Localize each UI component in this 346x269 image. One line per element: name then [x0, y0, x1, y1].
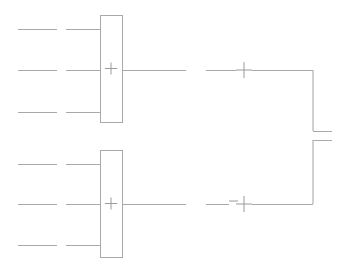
upper-summing-stage — [18, 16, 313, 123]
lower-summing-stage — [18, 151, 313, 258]
lower-sum-junction-plus-icon — [236, 196, 252, 212]
diagram-svg — [0, 0, 346, 269]
block-diagram-canvas — [0, 0, 346, 269]
right-feedback-bus — [313, 70, 332, 204]
upper-sum-junction-plus-icon — [236, 62, 252, 78]
